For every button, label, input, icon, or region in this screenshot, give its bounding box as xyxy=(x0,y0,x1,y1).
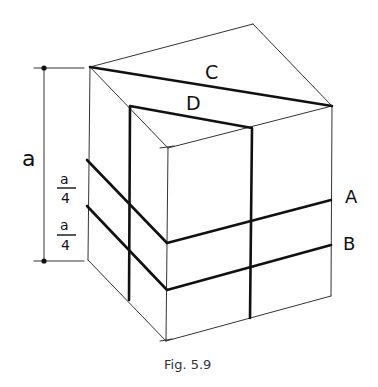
cube-diagram: a a 4 a 4 C D A B Fig. 5.9 xyxy=(0,0,378,387)
label-a: a xyxy=(22,146,35,171)
line-a xyxy=(87,160,331,243)
svg-text:a: a xyxy=(60,217,69,233)
label-d: D xyxy=(186,92,201,114)
quarter-label-upper: a 4 xyxy=(57,171,76,206)
svg-text:a: a xyxy=(60,171,69,187)
line-d xyxy=(129,106,252,318)
figure-caption: Fig. 5.9 xyxy=(164,357,211,372)
quarter-label-lower: a 4 xyxy=(57,217,76,253)
label-b-line: B xyxy=(343,233,355,254)
label-c: C xyxy=(205,61,218,83)
dimension-a xyxy=(34,65,84,263)
svg-text:4: 4 xyxy=(61,237,70,253)
label-a-line: A xyxy=(345,186,358,207)
svg-text:4: 4 xyxy=(61,190,70,206)
line-b xyxy=(87,206,331,290)
